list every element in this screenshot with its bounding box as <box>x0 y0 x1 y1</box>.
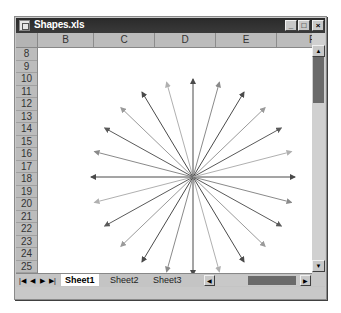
row-header-15[interactable]: 15 <box>16 136 37 149</box>
column-header-d[interactable]: D <box>155 33 216 47</box>
horizontal-scrollbar[interactable]: ◀ ▶ <box>204 275 311 286</box>
column-header-e[interactable]: E <box>216 33 277 47</box>
row-header-17[interactable]: 17 <box>16 161 37 174</box>
arrow-shape[interactable] <box>167 177 193 272</box>
maximize-button[interactable]: □ <box>298 20 310 31</box>
arrow-shape[interactable] <box>193 177 265 246</box>
arrow-shape[interactable] <box>193 128 281 177</box>
row-header-24[interactable]: 24 <box>16 248 37 261</box>
row-header-18[interactable]: 18 <box>16 173 37 186</box>
arrow-shape[interactable] <box>193 152 292 177</box>
arrow-shape[interactable] <box>105 177 193 226</box>
column-header-b[interactable]: B <box>38 33 94 47</box>
row-header-13[interactable]: 13 <box>16 111 37 124</box>
row-header-16[interactable]: 16 <box>16 148 37 161</box>
row-header-14[interactable]: 14 <box>16 123 37 136</box>
row-header: 8 9 10 11 12 13 14 15 16 17 18 19 20 21 … <box>16 48 38 273</box>
last-sheet-button[interactable]: ▶| <box>48 275 57 286</box>
prev-sheet-button[interactable]: ◀ <box>28 275 37 286</box>
row-header-9[interactable]: 9 <box>16 61 37 74</box>
arrow-shape[interactable] <box>142 92 193 177</box>
close-button[interactable]: × <box>312 20 324 31</box>
title-bar[interactable]: Shapes.xls _ □ × <box>16 18 325 33</box>
arrow-shape[interactable] <box>193 108 265 177</box>
next-sheet-button[interactable]: ▶ <box>38 275 47 286</box>
worksheet-grid[interactable] <box>38 48 312 273</box>
arrow-shape[interactable] <box>193 177 244 262</box>
scroll-up-button[interactable]: ▲ <box>312 45 325 57</box>
row-header-11[interactable]: 11 <box>16 86 37 99</box>
arrow-shape[interactable] <box>105 128 193 177</box>
row-header-8[interactable]: 8 <box>16 48 37 61</box>
sheet-tab-bar: |◀ ◀ ▶ ▶| Sheet1 Sheet2 Sheet3 ◀ ▶ <box>16 273 325 287</box>
arrow-shape[interactable] <box>193 177 281 226</box>
tab-sheet2[interactable]: Sheet2 <box>106 274 143 286</box>
radial-arrows-drawing[interactable] <box>38 48 312 273</box>
scroll-down-button[interactable]: ▼ <box>312 260 325 272</box>
vertical-scroll-thumb[interactable] <box>313 57 324 103</box>
row-header-21[interactable]: 21 <box>16 211 37 224</box>
arrow-shape[interactable] <box>193 82 219 177</box>
column-header: B C D E F <box>16 33 312 48</box>
row-header-25[interactable]: 25 <box>16 261 37 274</box>
first-sheet-button[interactable]: |◀ <box>18 275 27 286</box>
row-header-23[interactable]: 23 <box>16 236 37 249</box>
resize-grip[interactable] <box>312 273 325 286</box>
arrow-shape[interactable] <box>167 82 193 177</box>
arrow-shape[interactable] <box>121 108 193 177</box>
column-header-f[interactable]: F <box>277 33 317 47</box>
arrow-shape[interactable] <box>193 177 219 272</box>
row-header-10[interactable]: 10 <box>16 73 37 86</box>
row-header-19[interactable]: 19 <box>16 186 37 199</box>
arrow-shape[interactable] <box>121 177 193 246</box>
workbook-window: Shapes.xls _ □ × B C D E F 8 9 10 11 12 … <box>14 16 327 300</box>
scroll-left-button[interactable]: ◀ <box>204 275 215 286</box>
column-header-c[interactable]: C <box>94 33 155 47</box>
vertical-scrollbar[interactable]: ▲ ▼ <box>312 33 325 272</box>
horizontal-scroll-thumb[interactable] <box>248 276 296 285</box>
window-title: Shapes.xls <box>34 19 84 30</box>
tab-sheet1[interactable]: Sheet1 <box>61 274 99 286</box>
arrow-shape[interactable] <box>95 152 194 177</box>
row-header-22[interactable]: 22 <box>16 223 37 236</box>
row-header-20[interactable]: 20 <box>16 198 37 211</box>
arrow-shape[interactable] <box>193 92 244 177</box>
arrow-shape[interactable] <box>142 177 193 262</box>
row-header-12[interactable]: 12 <box>16 98 37 111</box>
minimize-button[interactable]: _ <box>285 20 297 31</box>
arrow-shape[interactable] <box>193 177 292 202</box>
select-all-corner[interactable] <box>16 33 38 47</box>
tab-sheet3[interactable]: Sheet3 <box>149 274 186 286</box>
excel-document-icon[interactable] <box>19 20 30 31</box>
arrow-shape[interactable] <box>95 177 194 202</box>
scroll-right-button[interactable]: ▶ <box>300 275 311 286</box>
